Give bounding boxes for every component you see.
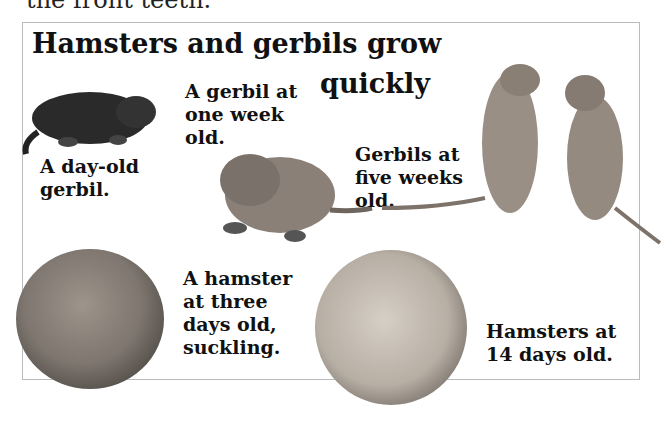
panel-title-line1: Hamsters and gerbils grow: [32, 28, 441, 59]
caption-day-old-gerbil: A day-old gerbil.: [40, 155, 139, 201]
week-old-gerbil-photo: [210, 140, 375, 245]
caption-fourteen-day-hamsters: Hamsters at 14 days old.: [486, 320, 616, 366]
nursing-hamster-circle-photo: [16, 249, 164, 389]
two-gerbils-standing-photo: [380, 58, 665, 253]
previous-page-text: the front teeth.: [26, 0, 211, 14]
caption-week-old-gerbil: A gerbil at one week old.: [185, 80, 297, 149]
young-hamsters-circle-photo: [315, 250, 467, 405]
newborn-gerbil-photo: [18, 82, 158, 162]
caption-three-day-hamster: A hamster at three days old, suckling.: [183, 267, 292, 359]
